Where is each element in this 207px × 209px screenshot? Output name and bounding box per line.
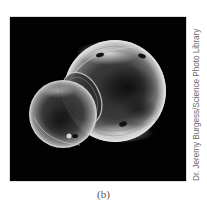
- soap-bubbles-image: [10, 17, 186, 181]
- photo-credit: Dr. Jeremy Burgess/Science Photo Library: [192, 29, 201, 181]
- figure-label: (b): [0, 188, 207, 200]
- bubble-photo: [10, 17, 186, 181]
- small-bubble: [29, 80, 97, 148]
